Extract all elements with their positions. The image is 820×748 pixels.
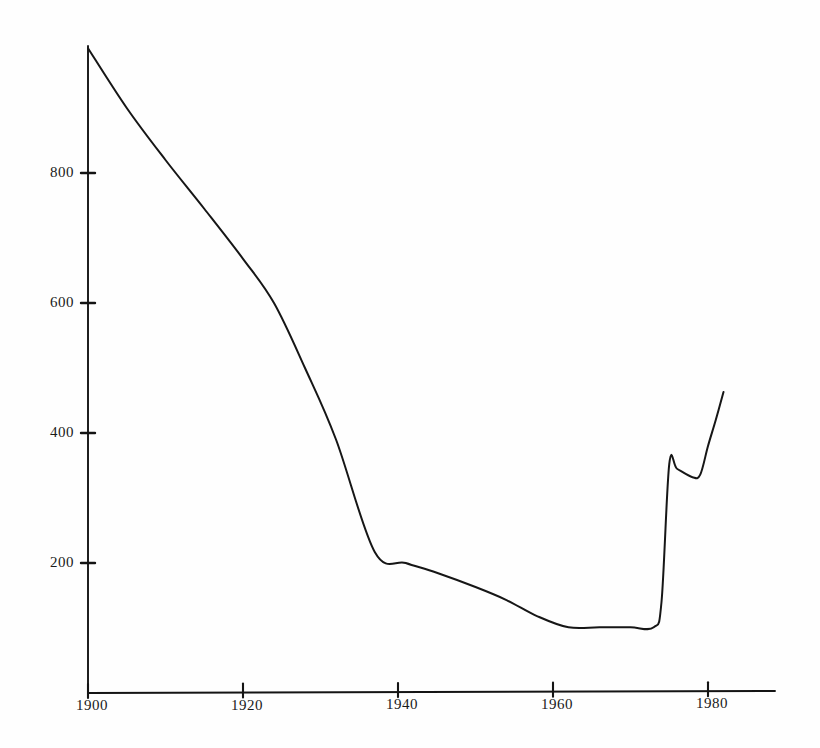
y-axis-tick-label: 800	[32, 164, 74, 181]
axes-group	[88, 46, 775, 693]
x-axis-tick-label: 1920	[231, 697, 263, 714]
x-axis-tick-label: 1960	[541, 696, 573, 713]
plot-area	[0, 0, 820, 748]
x-axis-tick-label: 1980	[696, 695, 728, 712]
data-line-series-1	[88, 48, 724, 629]
y-axis-tick-label: 200	[32, 554, 74, 571]
chart-figure: 200400600800 19001920194019601980	[0, 0, 820, 748]
y-axis-tick-label: 400	[32, 424, 74, 441]
x-axis-tick-label: 1940	[386, 696, 418, 713]
y-axis-tick-label: 600	[32, 294, 74, 311]
x-axis-tick-label: 1900	[76, 697, 108, 714]
x-axis-line	[88, 691, 775, 693]
series-group	[88, 48, 724, 629]
